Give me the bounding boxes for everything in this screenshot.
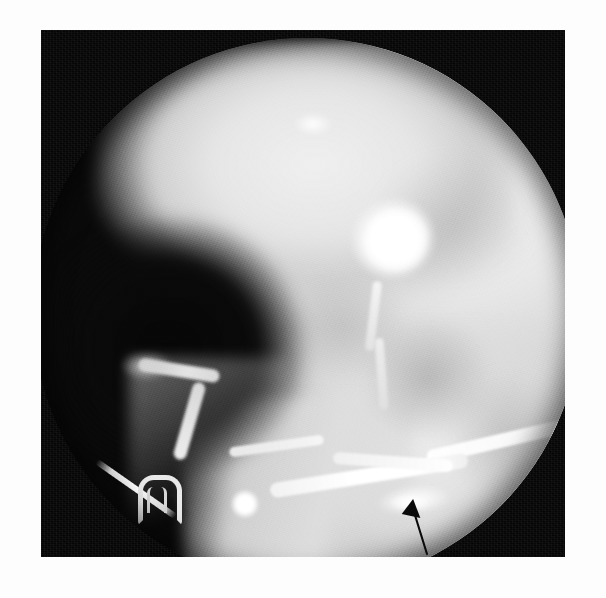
contrast-pooling-bead	[228, 488, 262, 521]
radiograph-image[interactable]	[41, 30, 565, 557]
radiopaque-clip-inner-marker	[147, 487, 167, 513]
bone-bright-speck	[291, 110, 335, 138]
contrast-extravasation-core	[385, 493, 433, 513]
figure-page	[0, 0, 606, 598]
glans-penis	[119, 350, 175, 382]
collimation-field	[41, 38, 565, 557]
